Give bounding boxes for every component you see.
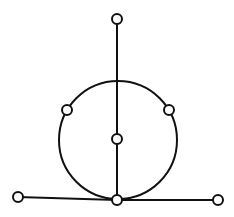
node-center bbox=[112, 134, 122, 144]
node-top bbox=[112, 14, 122, 24]
graph-diagram bbox=[0, 0, 234, 217]
node-bottom-right bbox=[213, 195, 223, 205]
node-circle-left bbox=[62, 105, 72, 115]
node-bottom-center bbox=[112, 195, 122, 205]
node-circle-right bbox=[164, 105, 174, 115]
node-bottom-left bbox=[13, 192, 23, 202]
edges-layer bbox=[18, 19, 218, 200]
